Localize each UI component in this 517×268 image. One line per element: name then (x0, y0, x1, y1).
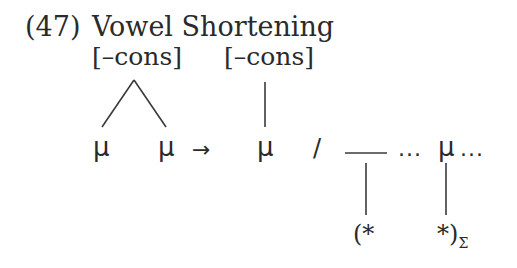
output-mora: μ (257, 134, 274, 160)
context-dots-before: ... (398, 138, 422, 160)
branch-right-line (134, 80, 166, 127)
branch-left-line (102, 80, 134, 127)
context-dots-after: ... (460, 138, 484, 160)
context-mora: μ (438, 134, 455, 160)
rewrite-arrow: → (192, 139, 210, 161)
input-mora-1: μ (93, 134, 110, 160)
environment-slash: / (313, 136, 321, 160)
foot-subscript: Σ (458, 235, 468, 251)
input-mora-2: μ (158, 134, 175, 160)
foot-close: *)Σ (437, 222, 468, 246)
foot-open: (* (353, 222, 374, 246)
foot-close-text: *) (437, 220, 458, 248)
